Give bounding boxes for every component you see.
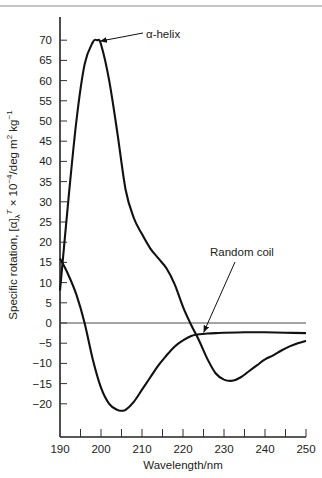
alpha-helix-label: α-helix bbox=[146, 28, 180, 40]
y-tick-label: 65 bbox=[39, 54, 52, 66]
y-tick-label: −5 bbox=[39, 337, 52, 349]
data-series bbox=[60, 40, 306, 411]
x-tick-label: 190 bbox=[50, 443, 69, 455]
y-tick-label: −15 bbox=[32, 378, 52, 390]
y-tick-label: 5 bbox=[46, 297, 52, 309]
random-coil-arrow bbox=[204, 262, 235, 333]
x-tick-label: 250 bbox=[296, 443, 315, 455]
alpha-helix-arrow bbox=[100, 33, 143, 41]
y-tick-label: 55 bbox=[39, 95, 52, 107]
y-tick-label: 30 bbox=[39, 196, 52, 208]
y-tick-label: −10 bbox=[32, 357, 52, 369]
annotations: α-helixRandom coil bbox=[100, 28, 274, 333]
y-tick-label: 40 bbox=[39, 155, 52, 167]
x-tick-label: 210 bbox=[132, 443, 151, 455]
cd-spectrum-chart: −20−15−10−505101520253035404550556065701… bbox=[0, 0, 322, 478]
y-tick-label: 50 bbox=[39, 115, 52, 127]
x-tick-label: 220 bbox=[173, 443, 192, 455]
chart-figure: −20−15−10−505101520253035404550556065701… bbox=[0, 0, 322, 478]
random-coil-curve bbox=[60, 258, 306, 410]
axes: −20−15−10−505101520253035404550556065701… bbox=[32, 17, 315, 455]
y-tick-label: 70 bbox=[39, 34, 52, 46]
y-tick-label: 35 bbox=[39, 176, 52, 188]
y-tick-label: 45 bbox=[39, 135, 52, 147]
y-tick-label: −20 bbox=[32, 398, 52, 410]
y-tick-label: 25 bbox=[39, 216, 52, 228]
x-tick-label: 230 bbox=[214, 443, 233, 455]
x-tick-label: 200 bbox=[91, 443, 110, 455]
y-tick-label: 15 bbox=[39, 256, 52, 268]
y-tick-label: 60 bbox=[39, 75, 52, 87]
y-tick-label: 20 bbox=[39, 236, 52, 248]
alpha-helix-curve bbox=[60, 40, 306, 381]
random-coil-label: Random coil bbox=[210, 246, 274, 258]
y-tick-label: 0 bbox=[46, 317, 52, 329]
x-axis-title: Wavelength/nm bbox=[143, 459, 222, 471]
y-axis-title-text: Specific rotation, [α]λT × 10−4/deg m2 k… bbox=[5, 110, 22, 320]
y-axis-title: Specific rotation, [α]λT × 10−4/deg m2 k… bbox=[5, 110, 22, 320]
y-tick-label: 10 bbox=[39, 277, 52, 289]
x-tick-label: 240 bbox=[255, 443, 274, 455]
